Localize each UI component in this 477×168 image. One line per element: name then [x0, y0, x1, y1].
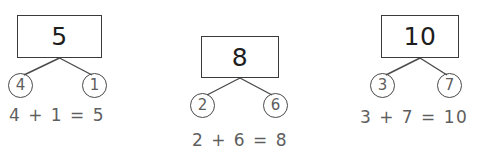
part-circle-left: 3: [370, 73, 395, 98]
number-bond-group: 8 2 6 2 + 6 = 8: [150, 0, 310, 168]
whole-value: 5: [51, 24, 67, 49]
part-value-left: 2: [198, 98, 208, 113]
equation-text: 2 + 6 = 8: [192, 132, 288, 149]
whole-box: 5: [17, 15, 102, 58]
equation-text: 4 + 1 = 5: [9, 107, 105, 124]
part-circle-right: 7: [437, 73, 462, 98]
part-value-right: 1: [90, 78, 100, 93]
part-value-left: 3: [378, 78, 388, 93]
number-bond-group: 5 4 1 4 + 1 = 5: [0, 0, 150, 130]
part-circle-left: 4: [8, 73, 33, 98]
number-bond-worksheet: 5 4 1 4 + 1 = 5 8 2 6 2 + 6 = 8: [0, 0, 477, 168]
whole-box: 8: [201, 36, 279, 78]
whole-value: 8: [232, 45, 248, 70]
number-bond-group: 10 3 7 3 + 7 = 10: [320, 0, 477, 130]
equation-text: 3 + 7 = 10: [360, 109, 468, 126]
part-value-left: 4: [16, 78, 26, 93]
part-circle-right: 6: [263, 93, 288, 118]
part-value-right: 7: [445, 78, 455, 93]
part-circle-right: 1: [82, 73, 107, 98]
whole-value: 10: [404, 24, 437, 49]
part-value-right: 6: [271, 98, 281, 113]
part-circle-left: 2: [190, 93, 215, 118]
whole-box: 10: [381, 15, 459, 58]
